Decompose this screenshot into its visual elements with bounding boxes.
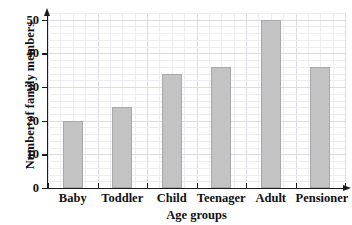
x-axis-tick bbox=[246, 183, 247, 189]
gridline-horizontal bbox=[48, 80, 345, 81]
x-axis-label-baby: Baby bbox=[48, 192, 98, 205]
gridline-horizontal bbox=[48, 168, 345, 169]
gridline-horizontal bbox=[48, 13, 345, 14]
y-axis-tick bbox=[42, 121, 48, 122]
x-axis-tick bbox=[147, 183, 148, 189]
gridline-horizontal bbox=[48, 20, 345, 21]
x-axis-title: Age groups bbox=[48, 208, 345, 223]
gridline-horizontal bbox=[48, 74, 345, 75]
y-axis-tick bbox=[42, 87, 48, 88]
gridline-horizontal bbox=[48, 154, 345, 155]
gridline-horizontal bbox=[48, 148, 345, 149]
gridline-vertical bbox=[345, 13, 346, 188]
y-axis-tick bbox=[42, 20, 48, 21]
bar-baby bbox=[63, 121, 83, 188]
x-axis-label-child: Child bbox=[147, 192, 197, 205]
gridline-horizontal bbox=[48, 114, 345, 115]
gridline-horizontal bbox=[48, 67, 345, 68]
y-axis-arrow-icon bbox=[44, 8, 50, 16]
gridline-horizontal bbox=[48, 33, 345, 34]
gridline-horizontal bbox=[48, 60, 345, 61]
gridline-horizontal bbox=[48, 53, 345, 54]
plot-area bbox=[48, 13, 345, 188]
bar-pensioner bbox=[310, 67, 330, 188]
x-axis-label-adult: Adult bbox=[246, 192, 296, 205]
x-axis-tick bbox=[98, 183, 99, 189]
gridline-horizontal bbox=[48, 87, 345, 88]
gridline-horizontal bbox=[48, 175, 345, 176]
gridline-horizontal bbox=[48, 47, 345, 48]
x-axis-tick bbox=[345, 183, 346, 189]
bar-toddler bbox=[112, 107, 132, 188]
gridline-horizontal bbox=[48, 40, 345, 41]
y-axis-tick bbox=[42, 53, 48, 54]
bar-child bbox=[162, 74, 182, 188]
gridline-horizontal bbox=[48, 94, 345, 95]
x-axis-label-pensioner: Pensioner bbox=[296, 192, 346, 205]
gridline-horizontal bbox=[48, 121, 345, 122]
y-axis-tick bbox=[42, 154, 48, 155]
y-axis-line bbox=[47, 14, 48, 189]
x-axis-tick bbox=[197, 183, 198, 189]
bar-chart: 01020304050 BabyToddlerChildTeenagerAdul… bbox=[0, 0, 352, 225]
gridline-horizontal bbox=[48, 26, 345, 27]
gridline-horizontal bbox=[48, 161, 345, 162]
bar-teenager bbox=[211, 67, 231, 188]
bar-adult bbox=[261, 20, 281, 188]
gridline-horizontal bbox=[48, 141, 345, 142]
gridline-horizontal bbox=[48, 134, 345, 135]
y-axis-title: Number of family members bbox=[23, 3, 38, 189]
gridline-horizontal bbox=[48, 127, 345, 128]
gridline-horizontal bbox=[48, 101, 345, 102]
gridline-horizontal bbox=[48, 107, 345, 108]
x-axis-tick bbox=[48, 183, 49, 189]
x-axis-label-teenager: Teenager bbox=[197, 192, 247, 205]
x-axis-tick bbox=[296, 183, 297, 189]
x-axis-label-toddler: Toddler bbox=[98, 192, 148, 205]
